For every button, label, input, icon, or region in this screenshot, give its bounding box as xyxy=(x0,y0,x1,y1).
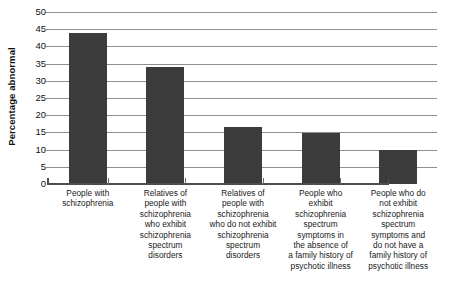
bar xyxy=(69,33,107,184)
y-axis-tick-label: 5 xyxy=(22,162,46,172)
x-axis-separator-tick xyxy=(263,178,264,184)
y-axis-title: Percentage abnormal xyxy=(0,0,22,192)
x-axis-category-label: Relatives of people with schizophrenia w… xyxy=(126,188,204,261)
x-axis-category-label: People who do not exhibit schizophrenia … xyxy=(359,188,437,271)
bar xyxy=(302,133,340,184)
bars-group xyxy=(49,12,437,184)
x-axis-separator-tick xyxy=(340,178,341,184)
y-axis-tick-label: 30 xyxy=(22,76,46,86)
x-axis-category-label: People with schizophrenia xyxy=(49,188,127,209)
x-axis-left-cap xyxy=(47,178,49,184)
y-axis-title-text: Percentage abnormal xyxy=(6,47,17,146)
y-axis-tick-labels: 05101520253035404550 xyxy=(22,12,46,184)
x-axis-separator-tick xyxy=(185,178,186,184)
y-axis-tick-label: 40 xyxy=(22,42,46,52)
x-axis-category-label: Relatives of people with schizophrenia w… xyxy=(204,188,282,261)
y-axis-tick-label: 45 xyxy=(22,24,46,34)
y-axis-tick-label: 25 xyxy=(22,93,46,103)
bar xyxy=(146,67,184,184)
y-axis-tick-label: 35 xyxy=(22,59,46,69)
bar xyxy=(224,127,262,184)
x-axis-category-label: People who exhibit schizophrenia spectru… xyxy=(282,188,360,271)
x-axis-separator-tick xyxy=(108,178,109,184)
y-axis-tick-label: 50 xyxy=(22,7,46,17)
x-axis-category-labels: People with schizophreniaRelatives of pe… xyxy=(49,188,437,289)
y-axis-tick-label: 10 xyxy=(22,145,46,155)
x-axis-line xyxy=(47,183,389,185)
x-axis-right-cap xyxy=(388,178,390,184)
y-axis-tick-label: 15 xyxy=(22,128,46,138)
y-axis-tick-label: 0 xyxy=(22,179,46,189)
bar xyxy=(379,150,417,184)
plot-area xyxy=(49,12,437,184)
y-axis-tick-label: 20 xyxy=(22,110,46,120)
bar-chart-figure: Percentage abnormal 05101520253035404550… xyxy=(0,0,456,289)
